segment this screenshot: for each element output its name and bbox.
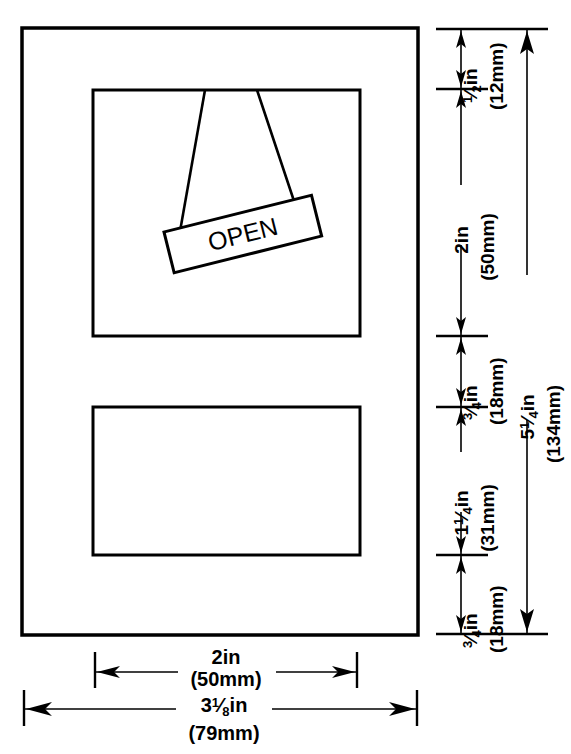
dimension-upper-window: 2in (50mm) [451,89,498,336]
svg-text:(31mm): (31mm) [477,484,498,552]
drawing-canvas: OPEN 1⁄2in [0,0,571,754]
dimension-inner-width: 2in (50mm) [95,646,357,690]
upper-window [93,90,360,336]
svg-text:2in: 2in [451,226,472,253]
dimension-label-bottom-margin: 3⁄4in [460,613,484,648]
dimension-label-bottom-margin-mm: (18mm) [486,585,507,653]
svg-text:(18mm): (18mm) [486,585,507,653]
dimension-label-gap-upper: 3⁄4in [460,385,484,420]
vertical-dimension-chain: 1⁄2in (12mm) 2in (50mm) [451,29,507,653]
dimension-gap-upper: 3⁄4in (18mm) [456,336,507,425]
svg-text:(18mm): (18mm) [486,357,507,425]
svg-text:3⁄4in: 3⁄4in [460,613,484,648]
dimension-label-overall-height: 51⁄4in [517,394,541,439]
dimension-label-top-margin-mm: (12mm) [486,42,507,110]
svg-text:(12mm): (12mm) [486,42,507,110]
technical-drawing: OPEN 1⁄2in [0,0,571,754]
dimension-label-lower-window: 11⁄4in [451,490,475,535]
lower-window [93,407,360,555]
dimension-label-upper-window: 2in [451,226,472,253]
sign-body-group [22,28,418,635]
dimension-label-lower-window-mm: (31mm) [477,484,498,552]
svg-text:3⁄4in: 3⁄4in [460,385,484,420]
svg-text:(50mm): (50mm) [477,213,498,281]
dimension-label-gap-upper-mm: (18mm) [486,357,507,425]
dimension-overall-width: 31⁄8in (79mm) [24,690,417,744]
dimension-overall-height: 51⁄4in (134mm) [517,29,564,634]
dimension-top-margin: 1⁄2in (12mm) [456,29,507,110]
dimension-label-top-margin: 1⁄2in [460,68,484,103]
svg-text:51⁄4in: 51⁄4in [517,394,541,439]
dimension-label-inner-width: 2in [212,646,241,668]
dimension-label-upper-window-mm: (50mm) [477,213,498,281]
unit-in: in [460,68,481,85]
svg-text:(134mm): (134mm) [543,385,564,463]
dimension-bottom-margin: 3⁄4in (18mm) [456,555,507,653]
dimension-label-inner-width-mm: (50mm) [190,668,261,690]
dimension-label-overall-width-mm: (79mm) [188,722,259,744]
dimension-label-overall-height-mm: (134mm) [543,385,564,463]
svg-text:1⁄2in: 1⁄2in [460,68,484,103]
svg-text:11⁄4in: 11⁄4in [451,490,475,535]
dimension-lower-window: 11⁄4in (31mm) [451,407,498,555]
